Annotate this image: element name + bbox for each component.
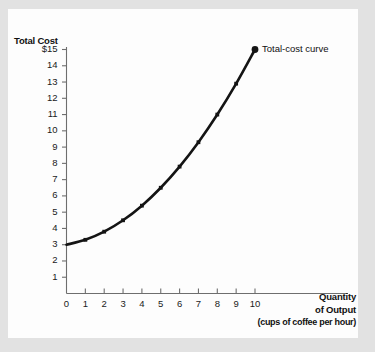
y-tick-label: 2 (28, 254, 58, 265)
x-tick-label: 4 (133, 298, 151, 309)
figure-panel: Total Cost Quantity of Output (cups of c… (8, 9, 358, 338)
y-tick-label: $15 (28, 43, 58, 54)
data-point-marker[interactable] (234, 82, 238, 86)
y-tick-label: 3 (28, 238, 58, 249)
x-tick-label: 6 (171, 298, 189, 309)
y-tick-label: 14 (28, 59, 58, 70)
data-point-marker[interactable] (140, 204, 144, 208)
data-point-marker[interactable] (102, 230, 106, 234)
series-label-total-cost-curve: Total-cost curve (262, 43, 329, 54)
y-tick-label: 1 (28, 271, 58, 282)
x-tick-label: 2 (95, 298, 113, 309)
data-point-marker[interactable] (178, 165, 182, 169)
data-point-marker[interactable] (215, 113, 219, 117)
y-tick-label: 5 (28, 206, 58, 217)
x-tick-label: 7 (189, 298, 207, 309)
x-tick-label: 10 (246, 298, 264, 309)
total-cost-chart: Total Cost Quantity of Output (cups of c… (8, 9, 358, 338)
x-tick-label: 8 (208, 298, 226, 309)
y-tick-label: 13 (28, 76, 58, 87)
x-axis-unit-label: (cups of coffee per hour) (204, 316, 356, 329)
origin-label: 0 (58, 298, 76, 309)
page-background: Total Cost Quantity of Output (cups of c… (0, 0, 375, 352)
data-point-marker[interactable] (159, 186, 163, 190)
data-point-markers (83, 46, 258, 242)
data-point-marker[interactable] (83, 238, 87, 242)
y-tick-label: 10 (28, 124, 58, 135)
axes-group (67, 47, 349, 294)
y-tick-label: 4 (28, 222, 58, 233)
endpoint-marker[interactable] (252, 46, 259, 53)
y-tick-label: 8 (28, 157, 58, 168)
x-tick-label: 9 (227, 298, 245, 309)
y-tick-label: 7 (28, 173, 58, 184)
x-tick-label: 5 (152, 298, 170, 309)
y-tick-label: 12 (28, 92, 58, 103)
x-tick-label: 3 (114, 298, 132, 309)
y-axis-ticks (62, 50, 67, 278)
total-cost-curve-line[interactable] (67, 50, 256, 245)
y-tick-label: 6 (28, 189, 58, 200)
y-tick-label: 9 (28, 141, 58, 152)
plot-area (8, 9, 358, 338)
y-tick-label: 11 (28, 108, 58, 119)
data-point-marker[interactable] (197, 140, 201, 144)
x-tick-label: 1 (76, 298, 94, 309)
data-point-marker[interactable] (121, 218, 125, 222)
